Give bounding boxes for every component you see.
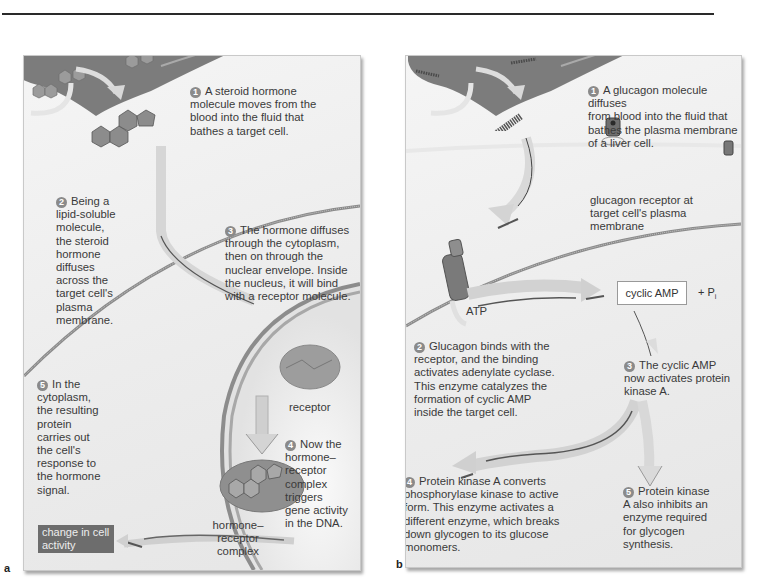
header-rule xyxy=(2,13,714,15)
panel-b-glucagon: 1A glucagon molecule diffuses from blood… xyxy=(405,55,742,568)
down-arrow xyxy=(488,204,514,226)
panel-b-step-1: 1A glucagon molecule diffuses from blood… xyxy=(588,84,741,150)
panel-b-step-4: 4Protein kinase A converts phosphorylase… xyxy=(405,475,560,554)
panel-a-step-5: 5In the cytoplasm, the resulting protein… xyxy=(37,378,100,497)
hormone-receptor-complex-label: hormone– receptor complex xyxy=(208,519,268,559)
step-number-badge: 3 xyxy=(225,226,236,237)
down-arrow xyxy=(246,434,278,454)
panel-a-letter: a xyxy=(4,562,10,574)
step-number-badge: 3 xyxy=(624,361,635,372)
step-number-badge: 2 xyxy=(56,197,67,208)
step-number-badge: 5 xyxy=(37,380,48,391)
panel-a-step-4: 4Now the hormone– receptor complex trigg… xyxy=(285,438,348,530)
cyclic-amp-box: cyclic AMP xyxy=(617,281,687,305)
panel-b-step-2: 2Glucagon binds with the receptor, and t… xyxy=(414,340,555,419)
panel-a-step-1: 1A steroid hormone molecule moves from t… xyxy=(190,85,316,138)
left-arrow xyxy=(116,534,128,548)
step-number-badge: 4 xyxy=(405,477,415,488)
atp-label: ATP xyxy=(466,305,487,318)
step-number-badge: 4 xyxy=(285,440,296,451)
panel-a-steroid-hormone: 1A steroid hormone molecule moves from t… xyxy=(23,55,361,571)
panel-b-step-3: 3The cyclic AMP now activates protein ki… xyxy=(624,359,730,399)
panel-a-step-3: 3The hormone diffuses through the cytopl… xyxy=(225,224,351,303)
left-arrow xyxy=(452,451,476,474)
receptor-label: receptor xyxy=(289,401,330,414)
glucagon-molecule xyxy=(493,116,521,131)
panel-b-letter: b xyxy=(396,558,403,570)
step-number-badge: 2 xyxy=(414,342,425,353)
glucagon-receptor-channel xyxy=(441,252,470,301)
glucagon-receptor-label: glucagon receptor at target cell's plasm… xyxy=(590,194,693,234)
panel-b-step-5: 5Protein kinase A also inhibits an enzym… xyxy=(623,485,710,551)
step-number-badge: 1 xyxy=(588,86,599,97)
step-number-badge: 1 xyxy=(190,87,201,98)
down-arrow-2 xyxy=(638,466,662,486)
receptor-shape xyxy=(280,345,340,389)
step-number-badge: 5 xyxy=(623,487,634,498)
panel-a-step-2: 2Being a lipid-soluble molecule, the ste… xyxy=(56,195,116,327)
change-in-cell-activity-box: change in cell activity xyxy=(38,525,114,553)
phosphate-label: + Pi xyxy=(698,286,716,300)
plasma-membrane xyxy=(406,224,741,326)
